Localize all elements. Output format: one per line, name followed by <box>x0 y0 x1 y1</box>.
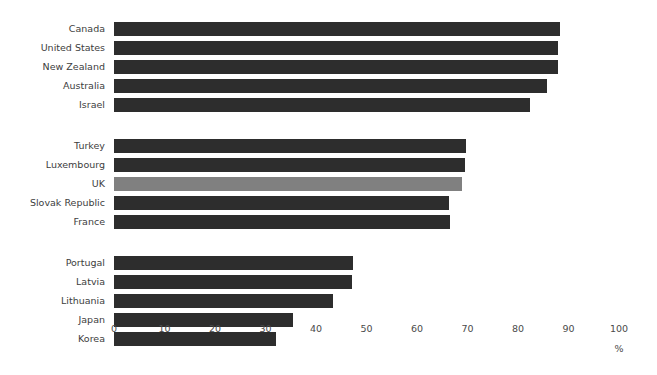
bar-israel <box>114 98 530 112</box>
bar-row: United States <box>0 41 657 55</box>
bar-latvia <box>114 275 352 289</box>
category-label-uk: UK <box>0 176 105 191</box>
bar-row: Turkey <box>0 139 657 153</box>
horizontal-bar-chart: CanadaUnited StatesNew ZealandAustraliaI… <box>0 0 657 375</box>
category-label-new-zealand: New Zealand <box>0 59 105 74</box>
category-label-australia: Australia <box>0 78 105 93</box>
bar-row: New Zealand <box>0 60 657 74</box>
bar-row: France <box>0 215 657 229</box>
bar-united-states <box>114 41 558 55</box>
bar-canada <box>114 22 560 36</box>
category-label-united-states: United States <box>0 40 105 55</box>
bar-row: UK <box>0 177 657 191</box>
bar-row: Portugal <box>0 256 657 270</box>
plot-area: CanadaUnited StatesNew ZealandAustraliaI… <box>0 0 657 375</box>
bar-row: Canada <box>0 22 657 36</box>
bar-row: Latvia <box>0 275 657 289</box>
category-label-israel: Israel <box>0 97 105 112</box>
category-label-canada: Canada <box>0 21 105 36</box>
bar-turkey <box>114 139 466 153</box>
bar-uk <box>114 177 462 191</box>
category-label-luxembourg: Luxembourg <box>0 157 105 172</box>
category-label-lithuania: Lithuania <box>0 293 105 308</box>
bar-row: Israel <box>0 98 657 112</box>
bar-row: Slovak Republic <box>0 196 657 210</box>
x-axis-unit-label: % <box>589 343 649 355</box>
bar-australia <box>114 79 547 93</box>
bar-lithuania <box>114 294 333 308</box>
bar-row: Lithuania <box>0 294 657 308</box>
bar-new-zealand <box>114 60 558 74</box>
category-label-latvia: Latvia <box>0 274 105 289</box>
bar-luxembourg <box>114 158 465 172</box>
bar-portugal <box>114 256 353 270</box>
x-axis: 0102030405060708090100 <box>0 322 657 338</box>
bar-slovak-republic <box>114 196 449 210</box>
category-label-portugal: Portugal <box>0 255 105 270</box>
category-label-france: France <box>0 214 105 229</box>
x-axis-tick-100: 100 <box>589 322 649 336</box>
category-label-slovak-republic: Slovak Republic <box>0 195 105 210</box>
category-label-turkey: Turkey <box>0 138 105 153</box>
bar-france <box>114 215 450 229</box>
bar-row: Australia <box>0 79 657 93</box>
bar-row: Luxembourg <box>0 158 657 172</box>
